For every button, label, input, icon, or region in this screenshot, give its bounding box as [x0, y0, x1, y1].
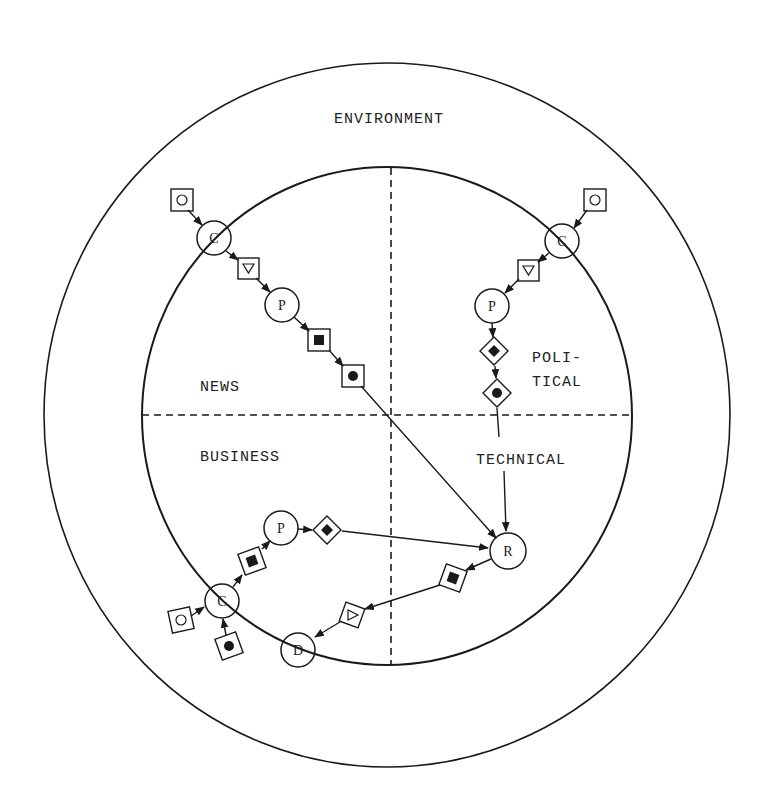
svg-text:P: P [278, 298, 286, 313]
svg-text:D: D [293, 643, 303, 658]
business-filled-circle-square-icon [215, 632, 243, 660]
news-label: NEWS [200, 379, 240, 396]
business-filled-square-diamond-icon [238, 547, 266, 575]
technical-label: TECHNICAL [476, 452, 566, 469]
business-label: BUSINESS [200, 449, 280, 466]
news-flow: C P [171, 189, 496, 538]
political-triangle-square-icon [518, 260, 539, 281]
news-filled-circle-square-icon [342, 365, 364, 387]
svg-text:P: P [277, 521, 285, 536]
political-filled-circle-diamond-icon [483, 379, 511, 407]
political-label-line2: TICAL [532, 374, 582, 391]
svg-text:C: C [209, 231, 218, 246]
news-filled-square-icon [308, 329, 330, 351]
business-filled-diamond-icon [313, 516, 341, 544]
business-flow: C P D [168, 511, 491, 667]
political-input-square-icon [584, 189, 606, 211]
svg-text:C: C [217, 594, 226, 609]
business-triangle-diamond-icon [339, 602, 365, 628]
news-input-square-icon [171, 189, 193, 211]
political-node-p: P [475, 289, 509, 323]
business-node-c: C [205, 584, 239, 618]
r-filled-square-diamond-icon [439, 564, 467, 592]
environment-label: ENVIRONMENT [334, 111, 444, 128]
political-label-line1: POLI- [532, 350, 582, 367]
business-node-d: D [281, 633, 315, 667]
svg-text:C: C [557, 234, 566, 249]
information-flow-diagram: ENVIRONMENT NEWS POLI- TICAL BUSINESS TE… [0, 0, 767, 807]
political-filled-diamond-icon [480, 337, 508, 365]
node-r: R [490, 533, 526, 569]
svg-text:P: P [488, 299, 496, 314]
business-input-square-icon [168, 607, 194, 633]
business-node-p: P [264, 511, 298, 545]
news-triangle-square-icon [238, 258, 259, 279]
news-node-p: P [265, 288, 299, 322]
news-node-c: C [197, 221, 231, 255]
political-node-c: C [545, 224, 579, 258]
svg-text:R: R [503, 544, 513, 559]
